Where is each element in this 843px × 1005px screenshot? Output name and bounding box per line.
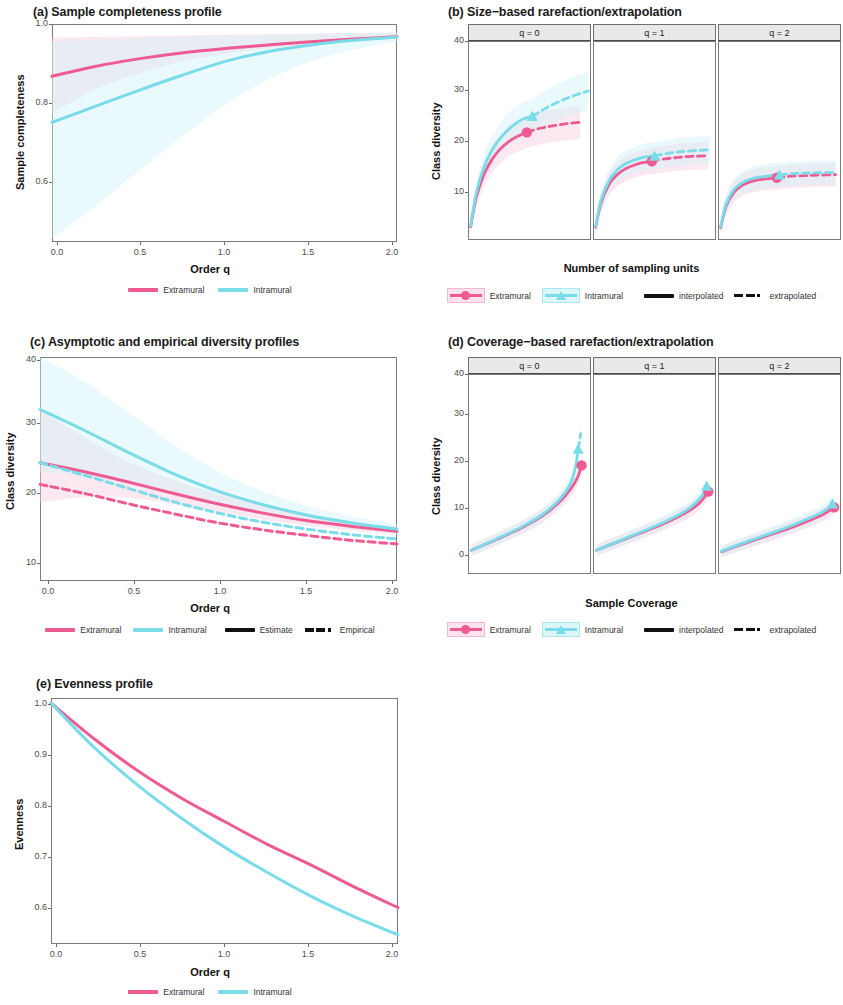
circle-icon [461, 291, 470, 300]
panel-d-title: (d) Coverage−based rarefaction/extrapola… [448, 335, 713, 349]
panel-c-legend-extramural: Extramural [45, 625, 121, 635]
panel-e-ytickmark-1 [48, 755, 51, 756]
panel-c-xtickmark-1 [134, 581, 135, 584]
panel-c-xtick-1: 0.5 [114, 586, 154, 596]
dashed-line-swatch [305, 628, 335, 631]
panel-e-ytick-3: 0.7 [23, 851, 47, 861]
panel-b-ytick-3: 40 [440, 35, 464, 45]
panel-c-legend-empirical: Empirical [305, 625, 375, 635]
intramural-line-swatch [218, 288, 248, 291]
panel-d-ytickmark-3 [465, 508, 468, 509]
panel-b-chart-1 [593, 41, 716, 240]
panel-c-ytickmark-3 [37, 563, 40, 564]
solid-line-swatch [644, 294, 674, 298]
extramural-line-swatch [128, 990, 158, 993]
panel-d-legend-extramural: Extramural [447, 622, 531, 637]
panel-b-ytick-2: 30 [440, 84, 464, 94]
panel-e-ytickmark-0 [48, 704, 51, 705]
panel-d-ytickmark-0 [465, 374, 468, 375]
panel-d-ytick-3: 10 [440, 502, 464, 512]
panel-b-title: (b) Size−based rarefaction/extrapolation [448, 5, 682, 19]
panel-e-xtickmark-0 [56, 944, 57, 947]
triangle-icon [556, 291, 566, 300]
panel-d-xaxis-label: Sample Coverage [420, 597, 843, 609]
panel-d-legend-label-2: interpolated [679, 625, 723, 635]
panel-b-yaxis-label: Class diversity [430, 102, 442, 180]
solid-line-swatch [644, 628, 674, 632]
panel-e-legend-label-0: Extramural [163, 987, 204, 997]
panel-e-ytick-2: 0.8 [23, 800, 47, 810]
panel-d-ytick-4: 0 [440, 549, 464, 559]
extramural-line-swatch [45, 628, 75, 631]
panel-e-xtickmark-3 [308, 944, 309, 947]
panel-c-xaxis-label: Order q [0, 602, 420, 614]
panel-c-chart [40, 357, 397, 581]
panel-c-legend-label-3: Empirical [340, 625, 375, 635]
panel-c-xtickmark-2 [220, 581, 221, 584]
panel-b-ytick-1: 20 [440, 135, 464, 145]
panel-b-legend-label-1: Intramural [585, 291, 623, 301]
panel-b-xaxis-label: Number of sampling units [420, 262, 843, 274]
intramural-line-swatch [133, 628, 163, 631]
panel-b-facet-label-2: q = 2 [769, 28, 789, 38]
panel-b-legend: Extramural Intramural interpolated extra… [420, 288, 843, 303]
panel-c-xtick-4: 2.0 [372, 586, 412, 596]
panel-e-xtickmark-1 [140, 944, 141, 947]
panel-d-legend: Extramural Intramural interpolated extra… [420, 622, 843, 637]
panel-a-xtick-2: 1.0 [204, 247, 244, 257]
panel-e-title: (e) Evenness profile [36, 677, 153, 691]
circle-icon [461, 625, 470, 634]
panel-b-legend-label-0: Extramural [490, 291, 531, 301]
extramural-point-key [447, 622, 485, 637]
panel-c-asymptotic-empirical: (c) Asymptotic and empirical diversity p… [0, 330, 420, 640]
panel-c-legend: Extramural Intramural Estimate Empirical [0, 625, 420, 635]
panel-e-xtick-2: 1.0 [204, 949, 244, 959]
panel-c-xtick-2: 1.0 [200, 586, 240, 596]
panel-a-sample-completeness: (a) Sample completeness profile 1.0 0.8 … [0, 0, 420, 320]
panel-a-ytickmark-1 [49, 103, 52, 104]
panel-b-legend-interpolated: interpolated [644, 291, 723, 301]
panel-d-ytick-0: 40 [440, 368, 464, 378]
panel-a-chart [52, 24, 397, 242]
panel-e-xtick-3: 1.5 [288, 949, 328, 959]
panel-e-legend-extramural: Extramural [128, 987, 204, 997]
panel-d-ytick-1: 30 [440, 408, 464, 418]
dashed-line-swatch [734, 294, 764, 297]
panel-e-xtick-0: 0.0 [36, 949, 76, 959]
panel-b-facet-label-0: q = 0 [519, 28, 539, 38]
panel-c-xtick-0: 0.0 [28, 586, 68, 596]
panel-a-xaxis-label: Order q [0, 263, 420, 275]
panel-e-ytick-4: 0.6 [23, 902, 47, 912]
panel-e-xtick-1: 0.5 [120, 949, 160, 959]
panel-c-xtickmark-0 [48, 581, 49, 584]
panel-c-xtickmark-3 [306, 581, 307, 584]
panel-e-ytickmark-4 [48, 908, 51, 909]
panel-c-legend-estimate: Estimate [225, 625, 293, 635]
solid-line-swatch [225, 628, 255, 632]
panel-a-xtick-4: 2.0 [372, 247, 412, 257]
panel-c-yaxis-label: Class diversity [4, 432, 16, 510]
panel-e-ytick-0: 1.0 [23, 698, 47, 708]
panel-b-legend-label-3: extrapolated [769, 291, 816, 301]
panel-a-xtickmark-1 [140, 242, 141, 245]
panel-b-chart-2 [718, 41, 841, 240]
panel-c-ytickmark-0 [37, 360, 40, 361]
panel-a-xtick-3: 1.5 [288, 247, 328, 257]
panel-c-ytick-3: 10 [12, 557, 36, 567]
panel-b-ytickmark-3 [465, 41, 468, 42]
extramural-line-swatch [128, 288, 158, 291]
panel-e-ytick-1: 0.9 [23, 749, 47, 759]
panel-e-legend-intramural: Intramural [218, 987, 291, 997]
panel-d-facet-label-0: q = 0 [519, 361, 539, 371]
panel-e-xtickmark-2 [224, 944, 225, 947]
panel-d-legend-extrapolated: extrapolated [734, 625, 816, 635]
panel-b-ytick-0: 10 [440, 186, 464, 196]
panel-d-facet-strip-0: q = 0 [468, 357, 591, 374]
panel-c-xtickmark-4 [392, 581, 393, 584]
panel-b-ytickmark-1 [465, 141, 468, 142]
panel-b-facet-strip-2: q = 2 [718, 24, 841, 41]
panel-e-xtick-4: 2.0 [372, 949, 412, 959]
panel-a-yaxis-label: Sample completeness [14, 74, 26, 190]
panel-d-legend-label-1: Intramural [585, 625, 623, 635]
panel-c-ytickmark-1 [37, 423, 40, 424]
